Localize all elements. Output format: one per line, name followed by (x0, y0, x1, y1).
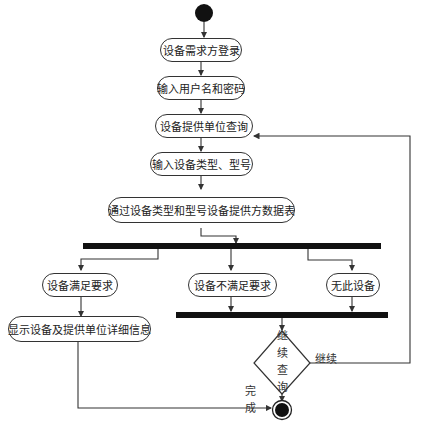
node-supplier-query: 设备提供单位查询 (155, 114, 253, 138)
edge-label-continue: 继续 (315, 350, 337, 366)
node-no-device: 无此设备 (326, 273, 380, 297)
fork-bar (83, 243, 381, 249)
join-bar (176, 312, 388, 318)
done-char-2: 成 (244, 400, 256, 417)
node-login: 设备需求方登录 (160, 38, 242, 62)
node-show-details: 显示设备及提供单位详细信息 (8, 316, 151, 342)
start-node-icon (195, 4, 213, 22)
decision-char-1: 继 (276, 328, 288, 345)
end-node-icon (275, 403, 289, 417)
decision-char-2: 续 (276, 345, 288, 362)
decision-char-4: 询 (276, 379, 288, 396)
node-input-type-model: 输入设备类型、型号 (150, 152, 253, 176)
node-input-credentials: 输入用户名和密码 (157, 76, 245, 100)
decision-char-3: 查 (276, 362, 288, 379)
edge-label-done: 完 成 (244, 383, 256, 417)
node-meets-requirements: 设备满足要求 (42, 273, 118, 297)
done-char-1: 完 (244, 383, 256, 400)
node-search-table: 通过设备类型和型号设备提供方数据表 (108, 197, 295, 223)
node-not-meets-requirements: 设备不满足要求 (188, 273, 277, 297)
decision-label: 继 续 查 询 (276, 328, 288, 396)
